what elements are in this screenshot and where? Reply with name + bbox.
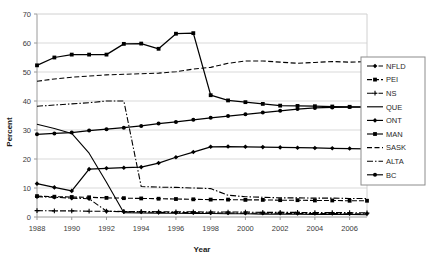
x-tick-label: 2000 bbox=[237, 224, 254, 233]
data-point-marker bbox=[226, 114, 230, 118]
data-point-marker bbox=[174, 197, 178, 201]
data-point-marker bbox=[191, 118, 195, 122]
legend-item-que[interactable]: QUE bbox=[386, 103, 402, 112]
data-point-marker bbox=[52, 56, 56, 60]
data-point-marker bbox=[244, 100, 248, 104]
data-point-marker bbox=[209, 198, 213, 202]
data-point-marker bbox=[87, 53, 91, 57]
y-tick-label: 30 bbox=[23, 126, 31, 135]
x-tick-label: 2004 bbox=[307, 224, 324, 233]
legend-item-ont[interactable]: ONT bbox=[386, 116, 402, 125]
legend-item-bc[interactable]: BC bbox=[386, 171, 397, 180]
data-point-marker bbox=[191, 197, 195, 201]
legend-item-sask[interactable]: SASK bbox=[386, 143, 406, 152]
data-point-marker bbox=[191, 31, 195, 35]
data-point-marker bbox=[226, 198, 230, 202]
data-point-marker bbox=[330, 199, 334, 203]
chart-container: 010203040506070 198819901992199419961998… bbox=[0, 0, 428, 258]
x-axis-title: Year bbox=[194, 245, 211, 254]
data-point-marker bbox=[35, 63, 39, 67]
data-point-marker bbox=[70, 53, 74, 57]
data-point-marker bbox=[261, 102, 265, 106]
y-tick-label: 40 bbox=[23, 97, 31, 106]
data-point-marker bbox=[278, 198, 282, 202]
x-tick-label: 1992 bbox=[98, 224, 115, 233]
legend-item-man[interactable]: MAN bbox=[386, 130, 403, 139]
data-point-marker bbox=[35, 132, 39, 136]
x-tick-label: 1988 bbox=[29, 224, 46, 233]
x-tick-label: 2002 bbox=[272, 224, 289, 233]
data-point-marker bbox=[139, 197, 143, 201]
legend-marker bbox=[373, 78, 377, 82]
data-point-marker bbox=[104, 127, 108, 131]
data-point-marker bbox=[373, 173, 377, 177]
y-tick-label: 60 bbox=[23, 39, 31, 48]
data-point-marker bbox=[174, 32, 178, 36]
data-point-marker bbox=[348, 199, 352, 203]
data-point-marker bbox=[70, 195, 74, 199]
data-point-marker bbox=[330, 105, 334, 109]
data-point-marker bbox=[52, 195, 56, 199]
data-point-marker bbox=[365, 199, 369, 203]
legend: NFLDPEINSQUEONTMANSASKALTABC bbox=[361, 57, 425, 185]
data-point-marker bbox=[313, 199, 317, 203]
y-axis-title: Percent bbox=[5, 117, 14, 147]
data-point-marker bbox=[87, 195, 91, 199]
legend-item-ns[interactable]: NS bbox=[386, 89, 396, 98]
x-tick-label: 1998 bbox=[202, 224, 219, 233]
data-point-marker bbox=[105, 53, 109, 57]
y-tick-label: 20 bbox=[23, 155, 31, 164]
x-tick-label: 1996 bbox=[168, 224, 185, 233]
data-point-marker bbox=[157, 197, 161, 201]
data-point-marker bbox=[226, 99, 230, 103]
data-point-marker bbox=[244, 198, 248, 202]
y-axis-tick-labels: 010203040506070 bbox=[23, 10, 31, 222]
legend-marker bbox=[373, 173, 377, 177]
data-point-marker bbox=[35, 194, 39, 198]
data-point-marker bbox=[348, 105, 352, 109]
data-point-marker bbox=[157, 122, 161, 126]
x-tick-label: 1990 bbox=[63, 224, 80, 233]
data-point-marker bbox=[373, 78, 377, 82]
data-point-marker bbox=[261, 198, 265, 202]
x-tick-label: 2006 bbox=[341, 224, 358, 233]
data-point-marker bbox=[105, 196, 109, 200]
data-point-marker bbox=[122, 42, 126, 46]
x-tick-label: 1994 bbox=[133, 224, 150, 233]
legend-marker bbox=[373, 132, 377, 136]
data-point-marker bbox=[157, 47, 161, 51]
data-point-marker bbox=[278, 109, 282, 113]
data-point-marker bbox=[52, 131, 56, 135]
data-point-marker bbox=[243, 112, 247, 116]
data-point-marker bbox=[122, 126, 126, 130]
data-point-marker bbox=[70, 131, 74, 135]
plot-background bbox=[37, 14, 367, 217]
data-point-marker bbox=[139, 42, 143, 46]
data-point-marker bbox=[209, 116, 213, 120]
y-tick-label: 10 bbox=[23, 184, 31, 193]
data-point-marker bbox=[87, 129, 91, 133]
x-axis-tick-labels: 1988199019921994199619982000200220042006 bbox=[29, 224, 358, 233]
data-point-marker bbox=[373, 132, 377, 136]
y-tick-label: 0 bbox=[27, 213, 31, 222]
legend-item-nfld[interactable]: NFLD bbox=[386, 62, 406, 71]
legend-item-pei[interactable]: PEI bbox=[386, 75, 398, 84]
y-tick-label: 50 bbox=[23, 68, 31, 77]
data-point-marker bbox=[209, 93, 213, 97]
legend-item-alta[interactable]: ALTA bbox=[386, 157, 404, 166]
data-point-marker bbox=[139, 124, 143, 128]
data-point-marker bbox=[296, 107, 300, 111]
y-tick-label: 70 bbox=[23, 10, 31, 19]
data-point-marker bbox=[296, 198, 300, 202]
data-point-marker bbox=[174, 120, 178, 124]
data-point-marker bbox=[122, 196, 126, 200]
data-point-marker bbox=[278, 104, 282, 108]
data-point-marker bbox=[313, 106, 317, 110]
line-chart: 010203040506070 198819901992199419961998… bbox=[0, 0, 428, 258]
data-point-marker bbox=[261, 111, 265, 115]
